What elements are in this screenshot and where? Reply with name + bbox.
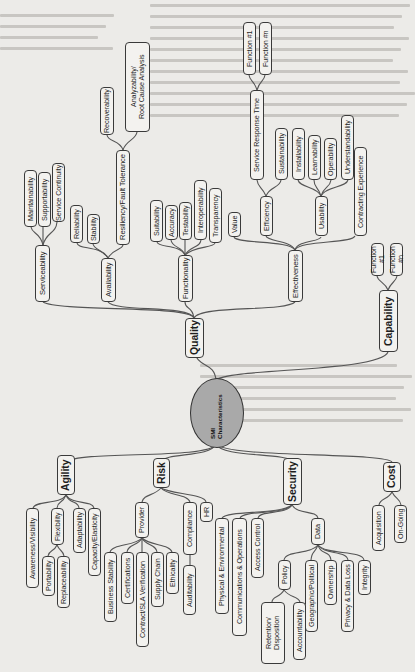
node-reliability: Reliability xyxy=(70,205,83,243)
node-on-going: On-Going xyxy=(394,505,407,543)
node-communications-operations: Communications & Operations xyxy=(232,518,247,636)
node-availability: Availability xyxy=(101,258,116,302)
node-effectiveness: Effectiveness xyxy=(288,250,303,302)
node-capability: Capability xyxy=(379,290,398,352)
node-installability: Installability xyxy=(292,128,305,180)
node-stability: Stability xyxy=(87,214,100,244)
node-privacy-data-loss: Privacy & Data Loss xyxy=(341,560,354,632)
node-quality: Quality xyxy=(185,318,204,358)
node-contracting-experience: Contracting Experience xyxy=(354,147,367,236)
node-functionality: Functionality xyxy=(178,255,193,302)
node-adaptability: Adaptability xyxy=(73,508,86,553)
node-understandability: Understandability xyxy=(341,115,354,180)
node-ethicality: Ethicality xyxy=(166,552,179,594)
node-cost: Cost xyxy=(383,462,401,492)
node-learnability: Learnability xyxy=(308,135,321,180)
node-contract-sla-verification: Contract/SLA Verification xyxy=(136,552,149,647)
node-agility: Agility xyxy=(57,455,75,495)
node-provider: Provider xyxy=(135,502,149,538)
node-acquisition: Acquisition xyxy=(372,505,385,551)
node-integrity: Integrity xyxy=(358,560,371,595)
node-testability: Testability xyxy=(179,202,192,240)
node-access-control: Access Control xyxy=(251,518,264,578)
node-business-stability: Business Stability xyxy=(104,552,117,622)
node-operability: Operability xyxy=(324,138,337,180)
node-resiliency-fault-tolerance: Resiliency/Fault Tolerance xyxy=(116,150,130,245)
node-compliance: Compliance xyxy=(183,502,197,555)
node-serviceability: Serviceability xyxy=(35,245,50,302)
node-auditability: Auditability xyxy=(183,565,196,615)
node-risk: Risk xyxy=(153,458,170,488)
node-usability: Usability xyxy=(315,196,328,236)
node-ownership: Ownership xyxy=(324,560,337,605)
node-accountability: Accountability xyxy=(293,602,306,660)
node-physical-environmental: Physical & Environmental xyxy=(215,518,229,614)
root-node-smi-characteristics: SMI Characteristics xyxy=(190,378,244,448)
node-policy: Policy xyxy=(278,560,291,590)
node-efficiency: Efficiency xyxy=(260,196,273,236)
node-retention-disposition: Retention/ Disposition xyxy=(261,602,285,664)
node-supply-chain: Supply Chain xyxy=(151,552,164,607)
node-security: Security xyxy=(283,458,302,505)
node-analyzability-root-cause: Analyzability/ Root Cause Analysis xyxy=(125,42,150,132)
node-value: Value xyxy=(228,212,241,237)
node-capability-function-n: Function #n xyxy=(390,243,403,276)
node-hr: HR xyxy=(200,502,213,522)
node-suitability: Suitability xyxy=(150,200,163,242)
node-portability: Portability xyxy=(42,556,55,596)
node-geographic-political: Geographic/Political xyxy=(305,560,318,632)
node-transparency: Transparency xyxy=(209,188,222,243)
node-capacity-elasticity: Capacity/Elasticity xyxy=(88,508,101,576)
node-supportability: Supportability xyxy=(38,172,51,227)
root-label: SMI Characteristics xyxy=(197,387,237,439)
node-replaceability: Replaceability xyxy=(57,556,70,608)
node-flexibility: Flexibility xyxy=(51,508,64,545)
node-recoverability: Recoverability xyxy=(100,87,114,135)
node-data: Data xyxy=(311,518,325,545)
node-srt-function-1: Function #1 xyxy=(243,22,256,75)
node-srt-function-n: Function #n xyxy=(259,22,272,75)
node-maintainability: Maintainability xyxy=(24,170,37,227)
node-interoperability: Interoperability xyxy=(194,180,207,240)
node-service-continuity: Service Continuity xyxy=(52,163,65,222)
node-certifications: Certifications xyxy=(121,552,134,604)
node-awareness-visibility: Awareness/Visibility xyxy=(26,508,39,588)
node-sustainability: Sustainability xyxy=(275,128,288,180)
node-service-response-time: Service Response Time xyxy=(250,90,264,180)
node-capability-function-1: Function #1 xyxy=(371,243,384,276)
node-accuracy: Accuracy xyxy=(165,205,178,240)
